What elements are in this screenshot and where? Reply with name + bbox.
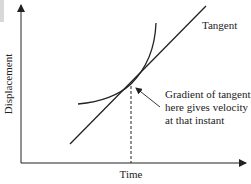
corner-mark	[0, 0, 4, 22]
y-axis-label: Displacement	[2, 54, 14, 114]
displacement-curve	[78, 23, 156, 104]
tangent-label: Tangent	[202, 19, 237, 31]
annotation-arrow	[136, 88, 160, 107]
x-axis-label: Time	[120, 168, 143, 180]
annotation-line-2: here gives velocity	[165, 101, 249, 113]
annotation-line-1: Gradient of tangent	[165, 88, 251, 100]
diagram-canvas: Tangent Gradient of tangent here gives v…	[0, 0, 251, 184]
annotation-line-3: at that instant	[165, 114, 224, 126]
